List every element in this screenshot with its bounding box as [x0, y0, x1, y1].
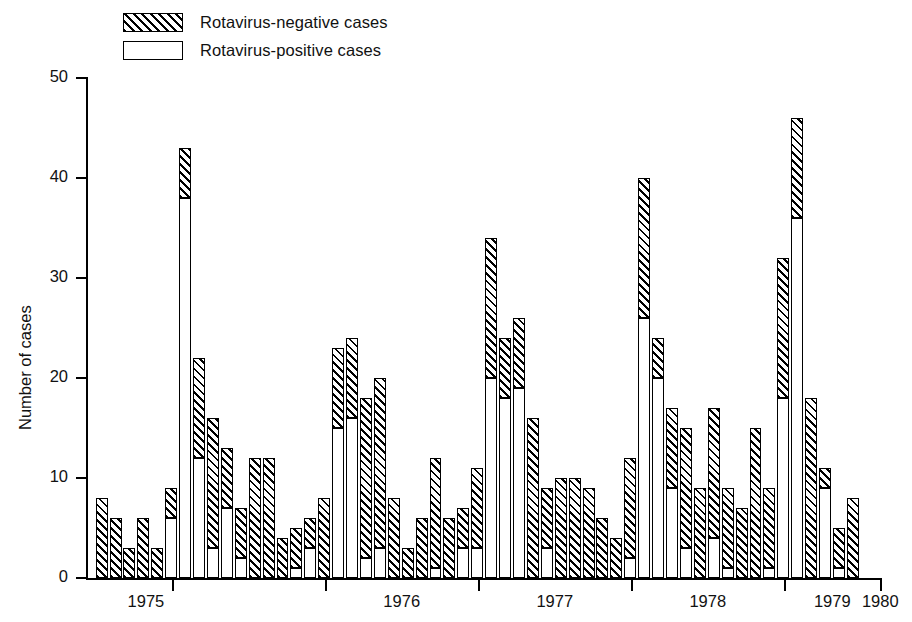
bar-segment-negative	[179, 148, 191, 198]
bar-segment-negative	[485, 238, 497, 378]
bar-segment-positive	[374, 548, 386, 578]
bar	[694, 488, 706, 578]
x-axis-tick-label-1978: 1978	[668, 592, 748, 611]
y-axis-tick-20	[76, 377, 88, 379]
bar-segment-negative	[193, 358, 205, 458]
bar	[847, 498, 859, 578]
bar-segment-positive	[290, 568, 302, 578]
bar-segment-positive	[819, 488, 831, 578]
bar	[443, 518, 455, 578]
bar-segment-negative	[263, 458, 275, 578]
bar-segment-negative	[722, 488, 734, 568]
bar	[457, 508, 469, 578]
bar-segment-negative	[290, 528, 302, 568]
bar-segment-negative	[457, 508, 469, 548]
bar-segment-positive	[680, 548, 692, 578]
chart-legend: Rotavirus-negative cases Rotavirus-posit…	[123, 8, 388, 64]
x-axis-tick-label-1975: 1975	[106, 592, 186, 611]
bar	[708, 408, 720, 578]
bar-segment-positive	[763, 568, 775, 578]
bar-segment-positive	[304, 548, 316, 578]
y-axis-tick-label-0: 0	[22, 567, 68, 586]
bar-segment-positive	[777, 398, 789, 578]
bar	[388, 498, 400, 578]
bar-segment-negative	[847, 498, 859, 578]
bar-segment-positive	[485, 378, 497, 578]
bar-segment-positive	[666, 488, 678, 578]
bar	[249, 458, 261, 578]
y-axis-tick-label-30: 30	[22, 267, 68, 286]
bar	[499, 338, 511, 578]
x-axis-tick-1976	[325, 578, 327, 591]
y-axis-tick-30	[76, 277, 88, 279]
x-axis-tick-1979	[784, 578, 786, 591]
bar-segment-positive	[541, 548, 553, 578]
bar	[151, 548, 163, 578]
bar	[652, 338, 664, 578]
y-axis-tick-10	[76, 477, 88, 479]
bar	[736, 508, 748, 578]
bar-segment-positive	[638, 318, 650, 578]
bar-segment-negative	[819, 468, 831, 488]
bar	[541, 488, 553, 578]
bar	[750, 428, 762, 578]
y-axis-tick-label-50: 50	[22, 67, 68, 86]
bar-segment-negative	[304, 518, 316, 548]
y-axis-tick-0	[76, 577, 88, 579]
bar	[624, 458, 636, 578]
bar-series-container	[88, 78, 881, 578]
bar	[165, 488, 177, 578]
bar	[791, 118, 803, 578]
bar	[360, 398, 372, 578]
bar-segment-negative	[638, 178, 650, 318]
bar-segment-negative	[123, 548, 135, 578]
bar	[722, 488, 734, 578]
bar-segment-negative	[374, 378, 386, 548]
bar-segment-positive	[207, 548, 219, 578]
bar-segment-negative	[360, 398, 372, 558]
bar-segment-negative	[332, 348, 344, 428]
bar	[513, 318, 525, 578]
bar	[777, 258, 789, 578]
bar	[638, 178, 650, 578]
bar-segment-positive	[833, 568, 845, 578]
y-axis-tick-label-40: 40	[22, 167, 68, 186]
bar-segment-positive	[499, 398, 511, 578]
bar-segment-negative	[499, 338, 511, 398]
bar-segment-positive	[471, 548, 483, 578]
bar	[527, 418, 539, 578]
bar-segment-positive	[179, 198, 191, 578]
bar-segment-positive	[791, 218, 803, 578]
bar-segment-negative	[110, 518, 122, 578]
bar-segment-negative	[346, 338, 358, 418]
bar-segment-positive	[624, 558, 636, 578]
bar-segment-negative	[750, 428, 762, 578]
bar-segment-positive	[193, 458, 205, 578]
bar-segment-positive	[652, 378, 664, 578]
bar-segment-negative	[763, 488, 775, 568]
legend-label-negative: Rotavirus-negative cases	[200, 13, 388, 32]
legend-item-positive: Rotavirus-positive cases	[123, 36, 388, 64]
x-axis-tick-1977	[478, 578, 480, 591]
x-axis-tick-1978	[631, 578, 633, 591]
bar	[680, 428, 692, 578]
bar-segment-negative	[541, 488, 553, 548]
bar	[137, 518, 149, 578]
x-axis-tick-label-1976: 1976	[362, 592, 442, 611]
bar-segment-negative	[96, 498, 108, 578]
bar	[666, 408, 678, 578]
bar-segment-negative	[513, 318, 525, 388]
bar	[596, 518, 608, 578]
bar-segment-positive	[513, 388, 525, 578]
legend-label-positive: Rotavirus-positive cases	[200, 41, 381, 60]
bar	[555, 478, 567, 578]
bar	[318, 498, 330, 578]
bar-segment-negative	[221, 448, 233, 508]
bar-segment-negative	[583, 488, 595, 578]
bar-segment-negative	[596, 518, 608, 578]
bar	[110, 518, 122, 578]
bar-segment-negative	[151, 548, 163, 578]
bar-segment-negative	[805, 398, 817, 578]
y-axis-tick-50	[76, 77, 88, 79]
x-axis-tick-1975	[172, 578, 174, 591]
